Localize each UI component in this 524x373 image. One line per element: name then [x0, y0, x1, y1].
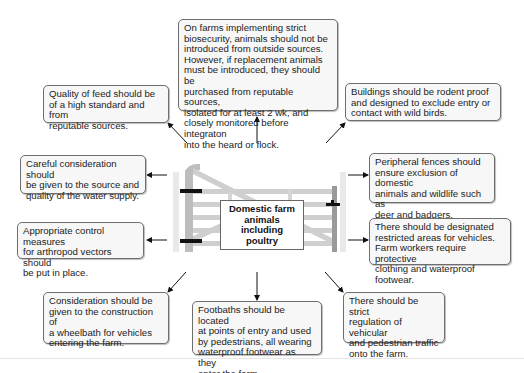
box-arthropod-vectors: Appropriate control measures for arthrop… — [17, 222, 144, 259]
box-traffic-regulation: There should be strict regulation of veh… — [343, 292, 445, 343]
box-feed-quality: Quality of feed should be of a high stan… — [43, 85, 169, 123]
box-peripheral-fences: Peripheral fences should ensure exclusio… — [369, 153, 495, 203]
arrow-lower-right — [325, 272, 343, 292]
box-biosecurity-sources: On farms implementing strict biosecurity… — [178, 19, 338, 111]
center-label: Domestic farm animals including poultry — [220, 200, 304, 250]
bottom-divider — [0, 358, 524, 359]
box-restricted-areas: There should be designated restricted ar… — [369, 218, 511, 265]
arrow-lower-left — [168, 272, 186, 292]
box-footbaths: Footbaths should be located at points of… — [192, 301, 322, 355]
box-wheelbath: Consideration should be given to the con… — [43, 292, 169, 344]
box-water-supply: Careful consideration should be given to… — [20, 155, 146, 194]
box-buildings: Buildings should be rodent proof and des… — [345, 83, 501, 121]
arrow-upper-right — [326, 123, 345, 143]
